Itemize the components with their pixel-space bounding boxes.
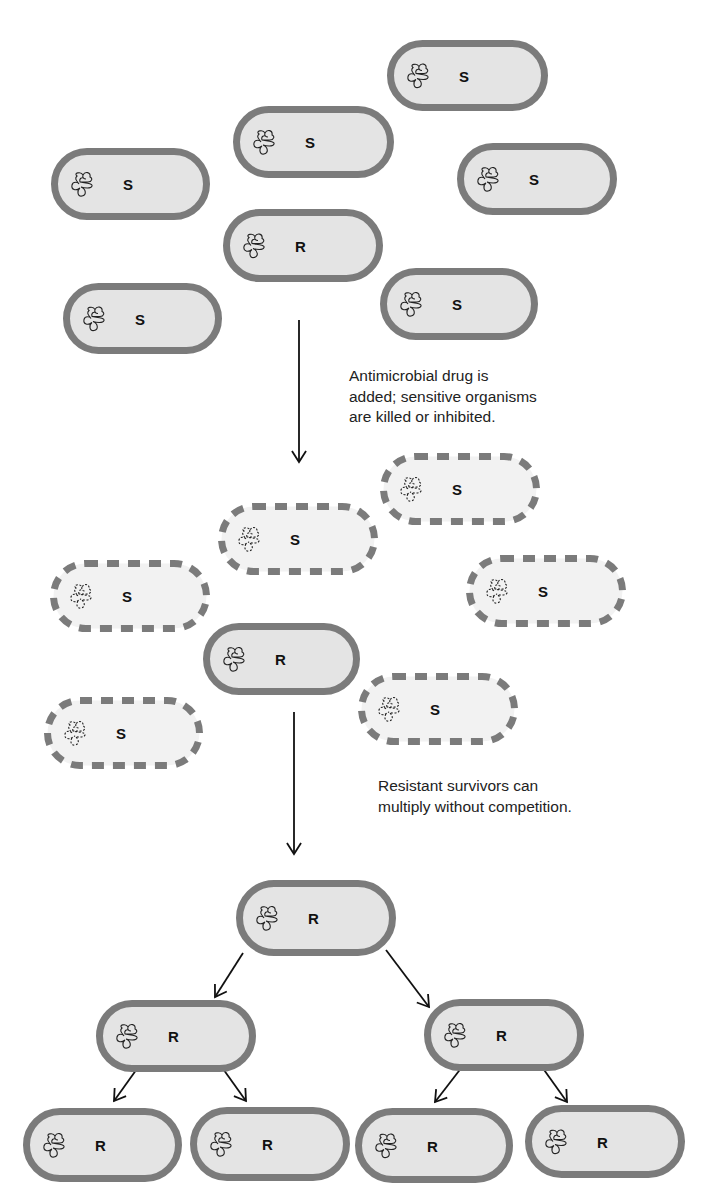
caption-line: Antimicrobial drug is — [349, 366, 537, 387]
cell-type-label: S — [122, 589, 132, 604]
cell-type-label: R — [597, 1135, 608, 1150]
cell-type-label: R — [95, 1138, 106, 1153]
caption-line: added; sensitive organisms — [349, 387, 537, 408]
cell-type-label: S — [430, 702, 440, 717]
cell-type-label: R — [262, 1137, 273, 1152]
bacterium-r: R — [236, 880, 396, 956]
cell-type-label: S — [135, 312, 145, 327]
cell-type-label: R — [496, 1028, 507, 1043]
bacterium-r: R — [96, 1000, 256, 1072]
arrow-drug-added — [292, 320, 306, 462]
cell-type-label: S — [123, 177, 133, 192]
cell-type-label: R — [275, 652, 286, 667]
cell-type-label: S — [290, 532, 300, 547]
bacterium-s: S — [233, 106, 394, 178]
bacterium-r: R — [190, 1107, 350, 1181]
caption-line: multiply without competition. — [378, 797, 572, 818]
cell-type-label: S — [452, 482, 462, 497]
bacterium-s: S — [51, 148, 210, 220]
killed-bacterium-s: S — [380, 453, 540, 525]
bacterium-r: R — [23, 1108, 182, 1182]
bacterium-s: S — [63, 283, 222, 354]
caption-line: are killed or inhibited. — [349, 407, 537, 428]
cell-type-label: S — [452, 297, 462, 312]
cell-type-label: S — [538, 584, 548, 599]
arrow-divide-left — [215, 953, 243, 997]
bacterium-s: S — [387, 40, 548, 111]
cell-type-label: R — [295, 239, 306, 254]
killed-bacterium-s: S — [44, 697, 203, 769]
bacterium-r: R — [424, 999, 584, 1071]
antimicrobial-resistance-diagram: SSSSRSSSSSSRSSRRRRRRR Antimicrobial drug… — [0, 0, 715, 1197]
bacterium-s: S — [380, 268, 538, 340]
bacterium-r: R — [525, 1105, 685, 1178]
arrow-divide-right-left — [435, 1067, 462, 1102]
killed-bacterium-s: S — [50, 560, 210, 632]
arrow-survivors — [287, 712, 301, 854]
killed-bacterium-s: S — [358, 673, 518, 745]
caption-line: Resistant survivors can — [378, 776, 572, 797]
bacterium-r: R — [355, 1108, 513, 1183]
cell-type-label: R — [308, 911, 319, 926]
cell-type-label: S — [305, 135, 315, 150]
cell-type-label: R — [168, 1029, 179, 1044]
killed-bacterium-s: S — [466, 555, 626, 627]
arrow-divide-right-right — [542, 1067, 567, 1102]
killed-bacterium-s: S — [218, 503, 378, 575]
arrow-divide-right — [386, 950, 429, 1007]
cell-type-label: R — [427, 1139, 438, 1154]
cell-type-label: S — [529, 172, 539, 187]
bacterium-s: S — [457, 143, 617, 215]
bacterium-r: R — [223, 209, 383, 282]
bacterium-r: R — [203, 623, 360, 695]
cell-type-label: S — [459, 69, 469, 84]
caption-drug-added: Antimicrobial drug is added; sensitive o… — [349, 366, 537, 428]
caption-survivors-multiply: Resistant survivors can multiply without… — [378, 776, 572, 817]
cell-type-label: S — [116, 726, 126, 741]
